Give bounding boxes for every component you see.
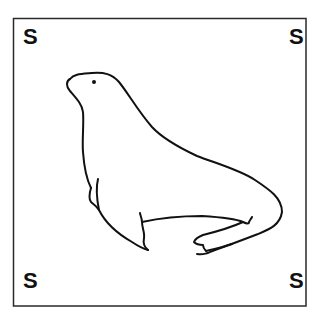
letter-card: S S S S	[0, 0, 320, 313]
corner-letter-top-left: S	[23, 26, 38, 48]
corner-letter-bottom-left: S	[23, 270, 38, 292]
seal-eye-icon	[92, 80, 96, 84]
corner-letter-top-right: S	[289, 26, 304, 48]
seal-illustration-icon	[0, 0, 320, 313]
corner-letter-bottom-right: S	[289, 270, 304, 292]
